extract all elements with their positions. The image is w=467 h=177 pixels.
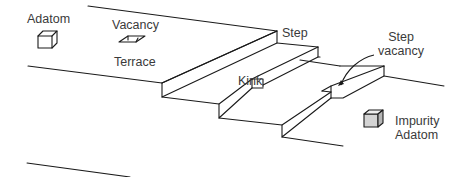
- impurity-adatom-cube-icon: [364, 110, 383, 127]
- terrace-label: Terrace: [114, 55, 156, 69]
- vacancy-label: Vacancy: [112, 18, 159, 32]
- step-vacancy-label-line2: vacancy: [376, 44, 426, 58]
- adatom-cube-icon: [38, 31, 57, 48]
- lower-terrace-right-edge: [384, 76, 444, 86]
- diagram-drawing: [0, 0, 467, 177]
- vacancy-rhombus-icon: [119, 36, 145, 42]
- impurity-label-line1: Impurity: [395, 114, 439, 128]
- lower-terrace-front-edge: [282, 137, 343, 146]
- surface-defects-diagram: Adatom Vacancy Terrace Step Kink Step va…: [0, 0, 467, 177]
- terrace2-front-edge: [162, 97, 219, 104]
- step-vacancy-label-line1: Step: [376, 30, 426, 44]
- step-vacancy-label: Step vacancy: [376, 30, 426, 58]
- kink-label: Kink: [238, 74, 262, 88]
- impurity-label-line2: Adatom: [395, 128, 439, 142]
- impurity-adatom-label: Impurity Adatom: [395, 114, 439, 142]
- terrace2-back-edge: [277, 43, 318, 47]
- terrace3-front-edge: [219, 118, 282, 125]
- crystal-bottom-edge: [27, 163, 130, 177]
- step3-riser-upper: [331, 66, 384, 98]
- adatom-label: Adatom: [27, 12, 70, 26]
- step-label: Step: [282, 26, 308, 40]
